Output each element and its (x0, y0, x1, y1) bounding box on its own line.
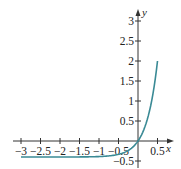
x-axis-label: x (165, 142, 171, 154)
y-tick-label: −0.5 (113, 155, 134, 167)
x-tick-label: −3 (15, 145, 27, 157)
y-tick-label: 2.5 (120, 35, 135, 47)
y-axis-label: y (141, 6, 147, 18)
x-tick-label: −1 (93, 145, 105, 157)
x-tick-label: 0.5 (150, 145, 165, 157)
x-tick-label: −1.5 (69, 145, 90, 157)
plot-svg: −3−2.5−2−1.5−1−0.50.5 −0.50.511.522.53 x… (0, 0, 181, 169)
y-tick-label: 0.5 (120, 115, 135, 127)
y-tick-label: 1 (128, 95, 134, 107)
y-axis-arrow-icon (136, 9, 141, 16)
function-curve (21, 61, 158, 157)
y-tick-label: 3 (128, 15, 134, 27)
y-tick-label: 2 (128, 55, 134, 67)
function-plot: −3−2.5−2−1.5−1−0.50.5 −0.50.511.522.53 x… (0, 0, 181, 169)
x-tick-label: −2.5 (30, 145, 51, 157)
y-tick-label: 1.5 (120, 75, 135, 87)
x-tick-label: −2 (54, 145, 66, 157)
